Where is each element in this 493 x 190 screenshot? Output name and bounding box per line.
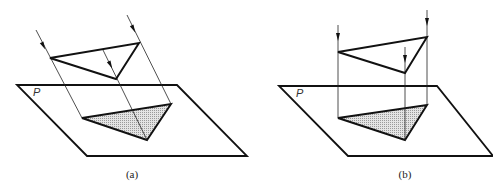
- caption-b: (b): [399, 168, 412, 181]
- projected-triangle: [338, 105, 427, 140]
- plane-label-a: P: [33, 86, 41, 98]
- panel-b-orthographic-projection: [279, 10, 493, 156]
- arrowhead-icon: [403, 55, 407, 63]
- object-triangle: [338, 37, 427, 73]
- arrowhead-icon: [130, 24, 135, 32]
- arrowhead-icon: [107, 60, 112, 68]
- panel-a-oblique-projection: [17, 15, 247, 156]
- object-triangle: [50, 43, 139, 79]
- projected-triangle: [82, 104, 171, 140]
- caption-a: (a): [126, 168, 139, 181]
- arrowhead-icon: [336, 33, 340, 41]
- plane-label-b: P: [296, 87, 304, 99]
- projection-diagram: (a) (b) P P: [0, 0, 493, 190]
- arrowhead-icon: [425, 18, 429, 26]
